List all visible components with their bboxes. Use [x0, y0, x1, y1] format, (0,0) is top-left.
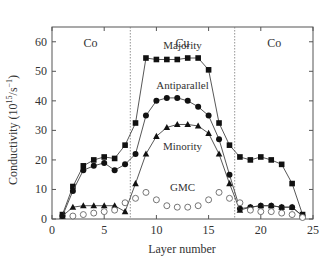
y-tick-label: 40 [35, 94, 47, 108]
conductivity-chart: 0510152025 0102030405060 CoCuCoMajorityA… [0, 0, 333, 261]
open-circle-marker [247, 207, 253, 213]
triangle-marker [205, 130, 212, 136]
square-marker [195, 55, 201, 61]
open-circle-marker [206, 197, 212, 203]
square-marker [154, 57, 160, 63]
y-tick-label: 20 [35, 153, 47, 167]
circle-marker [112, 167, 118, 173]
x-axis-title: Layer number [148, 242, 216, 256]
open-circle-marker [300, 215, 306, 221]
open-circle-marker [216, 189, 222, 195]
series-label-gmc: GMC [170, 181, 195, 193]
triangle-marker [174, 121, 181, 127]
region-label: Co [267, 36, 281, 50]
y-tick-label: 10 [35, 182, 47, 196]
circle-marker [122, 161, 128, 167]
square-marker [279, 162, 285, 168]
circle-marker [164, 95, 170, 101]
open-circle-marker [237, 200, 243, 206]
series-line [62, 98, 302, 216]
open-circle-marker [185, 204, 191, 210]
triangle-marker [216, 151, 223, 157]
open-circle-marker [268, 209, 274, 215]
circle-marker [174, 95, 180, 101]
circle-marker [206, 113, 212, 119]
circle-marker [143, 113, 149, 119]
series-line [62, 124, 302, 216]
open-circle-marker [133, 195, 139, 201]
circle-marker [80, 167, 86, 173]
open-circle-marker [143, 189, 149, 195]
series-label-antiparallel: Antiparallel [156, 79, 209, 91]
square-marker [227, 142, 233, 148]
y-tick-label: 30 [35, 123, 47, 137]
open-circle-marker [80, 212, 86, 218]
y-tick-label: 60 [35, 35, 47, 49]
open-circle-marker [70, 213, 76, 219]
open-circle-marker [122, 200, 128, 206]
square-marker [174, 57, 180, 63]
square-marker [143, 55, 149, 61]
open-circle-marker [112, 207, 118, 213]
region-label: Co [84, 36, 98, 50]
open-circle-marker [91, 210, 97, 216]
y-axis-title: Conductivity (1015/s−1) [5, 75, 20, 185]
square-marker [91, 157, 97, 163]
x-tick-label: 15 [203, 223, 215, 237]
open-circle-marker [258, 209, 264, 215]
circle-marker [153, 98, 159, 104]
circle-marker [70, 188, 76, 194]
square-marker [216, 120, 222, 126]
x-tick-label: 25 [307, 223, 319, 237]
circle-marker [101, 160, 107, 166]
triangle-marker [153, 133, 160, 139]
square-marker [258, 154, 264, 160]
x-tick-label: 0 [49, 223, 55, 237]
open-circle-marker [195, 203, 201, 209]
open-circle-marker [101, 209, 107, 215]
circle-marker [195, 104, 201, 110]
square-marker [206, 67, 212, 73]
triangle-marker [132, 180, 139, 186]
square-marker [133, 120, 139, 126]
triangle-marker [143, 151, 150, 157]
x-tick-label: 5 [101, 223, 107, 237]
open-circle-marker [153, 197, 159, 203]
square-marker [268, 157, 274, 163]
label-text: ) [6, 75, 20, 79]
series-antiparallel [59, 95, 305, 219]
superscript: −1 [5, 79, 14, 88]
square-marker [289, 181, 295, 187]
square-marker [101, 154, 107, 160]
triangle-marker [184, 121, 191, 127]
open-circle-marker [279, 210, 285, 216]
square-marker [122, 142, 128, 148]
circle-marker [91, 163, 97, 169]
x-tick-label: 20 [255, 223, 267, 237]
open-circle-marker [164, 203, 170, 209]
open-circle-marker [174, 204, 180, 210]
series-label-minority: Minority [163, 140, 203, 152]
square-marker [185, 55, 191, 61]
triangle-marker [122, 208, 129, 214]
square-marker [237, 154, 243, 160]
open-circle-marker [289, 212, 295, 218]
open-circle-marker [226, 195, 232, 201]
series-label-majority: Majority [163, 39, 202, 51]
superscript: 15 [5, 95, 14, 103]
circle-marker [216, 136, 222, 142]
y-tick-label: 0 [41, 212, 47, 226]
x-tick-label: 10 [150, 223, 162, 237]
square-marker [248, 157, 254, 163]
y-axis: 0102030405060 [35, 35, 313, 226]
square-marker [112, 156, 118, 162]
y-tick-label: 50 [35, 64, 47, 78]
square-marker [164, 57, 170, 63]
circle-marker [185, 98, 191, 104]
label-text: Conductivity (10 [6, 103, 20, 185]
circle-marker [133, 151, 139, 157]
